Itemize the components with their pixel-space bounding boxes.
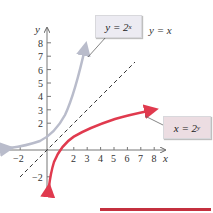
x-axis-label: x — [162, 152, 168, 164]
x-tick-label: 5 — [111, 153, 116, 164]
y-tick-label: 4 — [38, 91, 43, 102]
x-tick-label: 8 — [152, 153, 157, 164]
y-tick-label: 3 — [38, 105, 43, 116]
identity-equation-label: y = x — [149, 24, 172, 36]
exp-equation-base: y = 2 — [105, 21, 128, 33]
exp-equation-label: y = 2x — [95, 15, 142, 38]
x-tick-label: 4 — [98, 153, 103, 164]
y-tick-label: 2 — [38, 118, 43, 129]
exp-equation-exponent: x — [129, 23, 132, 31]
bottom-accent-bar — [100, 208, 211, 211]
y-tick-label: 7 — [38, 51, 43, 62]
y-tick-label: 6 — [38, 65, 43, 76]
x-tick-label: 7 — [138, 153, 143, 164]
x-tick-label: 6 — [125, 153, 130, 164]
x-tick-label: 2 — [71, 153, 76, 164]
x-tick-label: −2 — [13, 153, 24, 164]
log-equation-exponent: y — [197, 124, 200, 132]
log-curve — [49, 110, 154, 188]
y-ticks — [47, 43, 51, 177]
x-tick-label: 3 — [85, 153, 90, 164]
y-axis-label: y — [34, 23, 40, 35]
y-tick-label: 8 — [38, 38, 43, 49]
graph-figure: −2 2 3 4 5 6 7 8 8 7 6 5 4 3 2 −2 y x y … — [0, 0, 213, 213]
log-equation-label: x = 2y — [163, 116, 211, 139]
log-leader-line — [145, 116, 163, 125]
y-tick-label: −2 — [32, 172, 43, 183]
log-equation-base: x = 2 — [174, 122, 197, 134]
exp-leader-line — [88, 37, 106, 57]
y-tick-label: 5 — [38, 78, 43, 89]
